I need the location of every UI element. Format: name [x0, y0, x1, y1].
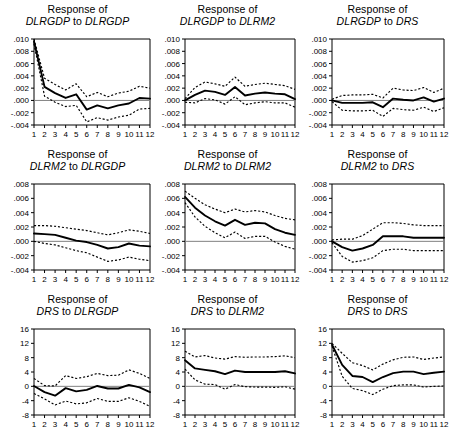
y-axis-tick-label: -4: [320, 397, 328, 406]
panel-title-prefix: Response of: [0, 148, 155, 160]
x-axis-tick-label: 12: [440, 275, 449, 283]
y-axis-tick-label: .008: [164, 180, 180, 189]
x-axis-tick-label: 4: [63, 275, 68, 283]
x-axis-tick-label: 2: [42, 420, 47, 428]
response-variable: DRS: [191, 305, 213, 317]
y-axis-tick-label: -4: [22, 397, 30, 406]
panel-title-vars: DLRM2 to DRS: [300, 160, 455, 172]
panel-title-vars: DRS to DRS: [300, 305, 455, 317]
shock-variable: DRS: [392, 160, 414, 172]
response-variable: DLRGDP: [337, 15, 381, 27]
panel-title-vars: DLRM2 to DLRM2: [155, 160, 300, 172]
chart-panel: Response ofDRS to DLRM2-8-40481216123456…: [155, 290, 300, 432]
chart-panel: Response ofDLRGDP to DRS-.004-.002.000.0…: [300, 0, 455, 145]
x-axis-tick-label: 3: [350, 275, 355, 283]
x-axis-tick-label: 12: [440, 130, 449, 138]
shock-variable: DLRGDP: [74, 305, 118, 317]
x-axis-tick-label: 10: [124, 420, 133, 428]
x-axis-tick-label: 7: [95, 275, 100, 283]
y-axis-tick-label: .010: [311, 35, 327, 44]
title-to-word: to: [216, 305, 225, 317]
x-axis-tick-label: 5: [74, 130, 79, 138]
title-to-word: to: [227, 15, 236, 27]
y-axis-tick-label: .008: [311, 47, 327, 56]
response-variable: DLRM2: [30, 160, 66, 172]
confidence-band-line: [34, 370, 150, 386]
confidence-band-line: [34, 226, 150, 235]
plot-area: -.004-.002.000.002.004.006.0081234567891…: [0, 178, 155, 283]
shock-variable: DLRGDP: [85, 15, 129, 27]
x-axis-tick-label: 11: [281, 275, 290, 283]
impulse-response-line: [185, 87, 295, 101]
x-axis-tick-label: 10: [124, 130, 133, 138]
plot-frame: [34, 329, 150, 415]
title-to-word: to: [73, 15, 82, 27]
y-axis-tick-label: .004: [311, 72, 327, 81]
x-axis-tick-label: 1: [330, 420, 335, 428]
x-axis-tick-label: 12: [291, 130, 300, 138]
panel-title-vars: DRS to DLRM2: [155, 305, 300, 317]
plot-frame: [332, 184, 444, 270]
x-axis-tick-label: 4: [63, 130, 68, 138]
y-axis-tick-label: .000: [164, 96, 180, 105]
x-axis-tick-label: 5: [223, 275, 228, 283]
y-axis-tick-label: 12: [171, 339, 180, 348]
x-axis-tick-label: 1: [183, 130, 188, 138]
shock-variable: DRS: [385, 305, 407, 317]
y-axis-tick-label: .008: [311, 180, 327, 189]
x-axis-tick-label: 9: [263, 420, 268, 428]
impulse-response-line: [332, 97, 444, 107]
y-axis-tick-label: .002: [311, 223, 327, 232]
x-axis-tick-label: 5: [74, 275, 79, 283]
x-axis-tick-label: 9: [116, 420, 121, 428]
y-axis-tick-label: 12: [20, 339, 29, 348]
y-axis-tick-label: 0: [176, 382, 181, 391]
chart-panel: Response ofDRS to DRS-8-4048121612345678…: [300, 290, 455, 432]
y-axis-tick-label: -.004: [11, 266, 30, 275]
x-axis-tick-label: 8: [401, 420, 406, 428]
x-axis-tick-label: 5: [223, 420, 228, 428]
panel-title: Response ofDLRGDP to DLRM2: [155, 0, 300, 27]
panel-title: Response ofDRS to DRS: [300, 290, 455, 317]
x-axis-tick-label: 11: [430, 420, 439, 428]
confidence-band-line: [332, 343, 444, 370]
panel-title-prefix: Response of: [0, 293, 155, 305]
x-axis-tick-label: 5: [371, 275, 376, 283]
x-axis-tick-label: 2: [42, 275, 47, 283]
x-axis-tick-label: 2: [193, 130, 198, 138]
x-axis-tick-label: 9: [411, 130, 416, 138]
y-axis-tick-label: 4: [176, 368, 181, 377]
x-axis-tick-label: 8: [401, 275, 406, 283]
y-axis-tick-label: .002: [164, 84, 180, 93]
y-axis-tick-label: 4: [323, 368, 328, 377]
y-axis-tick-label: -.002: [11, 252, 30, 261]
y-axis-tick-label: -.004: [11, 121, 30, 130]
x-axis-tick-label: 6: [381, 420, 386, 428]
y-axis-tick-label: .004: [13, 209, 29, 218]
x-axis-tick-label: 3: [53, 420, 58, 428]
confidence-band-line: [185, 97, 295, 107]
x-axis-tick-label: 3: [53, 275, 58, 283]
y-axis-tick-label: .004: [13, 72, 29, 81]
plot-area: -.004-.002.000.002.004.006.0081234567891…: [155, 178, 300, 283]
panel-title-prefix: Response of: [300, 148, 455, 160]
confidence-band-line: [185, 203, 295, 250]
confidence-band-line: [185, 77, 295, 99]
x-axis-tick-label: 9: [263, 130, 268, 138]
response-variable: DLRGDP: [26, 15, 70, 27]
y-axis-tick-label: .000: [311, 237, 327, 246]
chart-panel: Response ofDLRM2 to DLRGDP-.004-.002.000…: [0, 145, 155, 290]
x-axis-tick-label: 10: [419, 130, 428, 138]
y-axis-tick-label: .000: [311, 96, 327, 105]
y-axis-tick-label: -.002: [162, 109, 181, 118]
x-axis-tick-label: 8: [401, 130, 406, 138]
y-axis-tick-label: -8: [320, 411, 328, 420]
impulse-response-line: [332, 236, 444, 250]
y-axis-tick-label: -.004: [162, 266, 181, 275]
x-axis-tick-label: 11: [135, 420, 144, 428]
x-axis-tick-label: 2: [42, 130, 47, 138]
y-axis-tick-label: .006: [164, 60, 180, 69]
panel-title: Response ofDLRM2 to DRS: [300, 145, 455, 172]
y-axis-tick-label: 8: [176, 354, 181, 363]
title-to-word: to: [380, 160, 389, 172]
